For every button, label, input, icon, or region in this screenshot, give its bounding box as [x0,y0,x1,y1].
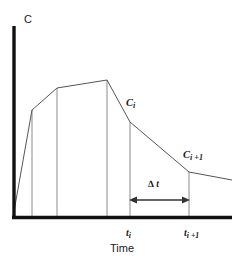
c-i-plus-1-label: Ci +1 [183,150,203,161]
concentration-vs-time-diagram: C Time Ci Ci +1 ∆ t ti ti +1 [0,0,240,268]
concentration-curve [13,80,232,217]
delta-t-label: ∆ t [148,180,159,190]
c-i-label: Ci [126,98,135,109]
axes-group [12,26,232,218]
c-i-base: C [126,97,133,108]
c-i-plus-1-base: C [183,149,190,160]
y-axis-label: C [24,14,32,25]
t-i-plus-1-subscript: i +1 [187,231,199,240]
c-i-plus-1-subscript: i +1 [190,153,203,162]
delta-t-arrow [129,196,190,203]
c-i-subscript: i [133,101,135,110]
x-axis-label: Time [110,243,134,254]
x-tick-label-ti-plus-1: ti +1 [184,228,199,238]
x-tick-label-ti: ti [126,228,131,238]
t-i-subscript: i [129,231,131,240]
drop-lines-group [32,80,189,217]
plot-canvas [0,0,240,268]
